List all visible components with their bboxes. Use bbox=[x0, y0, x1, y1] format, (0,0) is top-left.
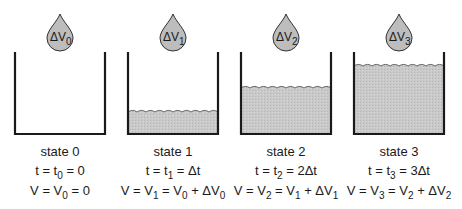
container bbox=[15, 52, 105, 134]
state-0-group: ΔV0 bbox=[15, 14, 105, 134]
volume-equation: V = V3 = V2 + ΔV2 bbox=[329, 183, 462, 199]
state-3-group: ΔV3 bbox=[354, 14, 444, 134]
water-fill bbox=[241, 86, 331, 134]
time-equation: t = t3 = 3Δt bbox=[329, 163, 462, 179]
state-1-group: ΔV1 bbox=[128, 14, 218, 134]
water-fill bbox=[128, 110, 218, 134]
state-label: state 3 bbox=[329, 144, 462, 159]
state-2-group: ΔV2 bbox=[241, 14, 331, 134]
water-fill bbox=[354, 64, 444, 134]
